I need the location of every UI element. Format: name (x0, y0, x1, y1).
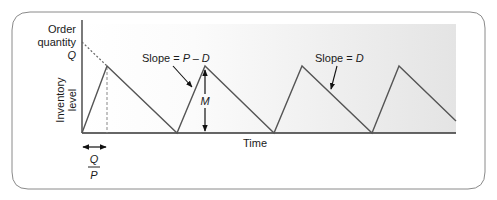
production-time-numerator: Q (90, 153, 99, 165)
y-axis-label-line1: Inventory (54, 77, 66, 123)
max-inventory-label: M (200, 95, 210, 107)
order-quantity-value: Q (67, 49, 76, 61)
x-axis-label: Time (243, 137, 267, 149)
slope-production-label: Slope = P – D (142, 52, 210, 64)
plot-background (82, 24, 456, 133)
order-quantity-label-line2: quantity (37, 36, 76, 48)
order-quantity-label-line1: Order (48, 23, 76, 35)
production-time-denominator: P (90, 169, 98, 181)
y-axis-label-line2: level (66, 89, 78, 112)
inventory-diagram: M Slope = P – D Slope = D Order quantity… (0, 0, 497, 200)
slope-demand-label: Slope = D (315, 52, 364, 64)
